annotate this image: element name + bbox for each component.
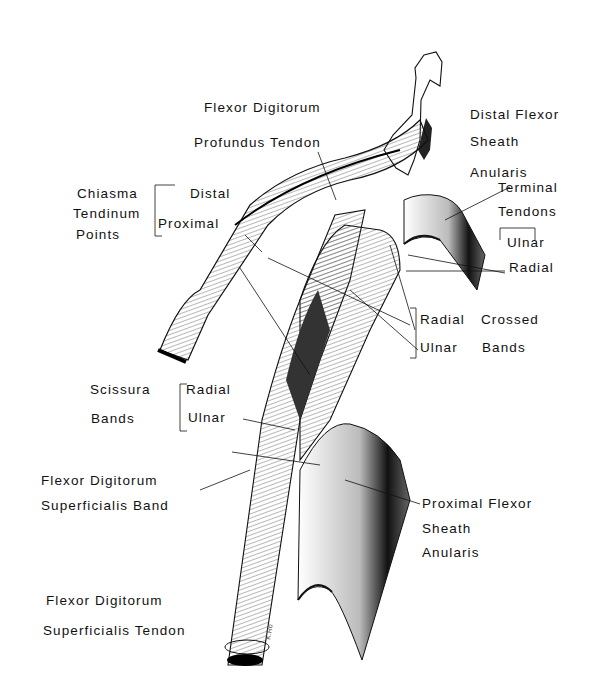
label-chiasma-line1: Chiasma [77,186,138,202]
label-distal-sheath-line1: Distal Flexor [470,107,559,123]
label-chiasma-line2: Tendinum [73,206,140,222]
label-crossed-line1: Crossed [481,312,539,328]
distal-flexor-sheath [404,195,485,290]
label-fdp-line1: Flexor Digitorum [204,100,321,116]
label-crossed-ulnar: Ulnar [420,340,458,356]
label-terminal-ulnar: Ulnar [507,235,545,251]
label-proximal-sheath-line3: Anularis [422,545,480,561]
label-chiasma-line3: Points [76,227,120,243]
label-scissura-line1: Scissura [90,382,151,398]
label-proximal-sheath-line2: Sheath [422,521,471,537]
label-distal-sheath-line3: Anularis [470,165,528,181]
label-scissura-ulnar: Ulnar [188,410,226,426]
proximal-flexor-sheath [298,424,410,660]
label-crossed-radial: Radial [420,312,465,328]
label-scissura-radial: Radial [186,382,231,398]
label-scissura-line2: Bands [91,411,135,427]
label-fds-tendon-line1: Flexor Digitorum [46,593,163,609]
label-fds-band-line1: Flexor Digitorum [41,473,158,489]
label-crossed-line2: Bands [482,340,526,356]
label-terminal-line1: Terminal [498,180,558,196]
label-terminal-radial: Radial [509,260,554,276]
label-fds-band-line2: Superficialis Band [41,498,169,514]
artist-signature: K.Ro [264,624,274,641]
label-fds-tendon-line2: Superficialis Tendon [43,623,186,639]
label-terminal-line2: Tendons [498,204,557,220]
label-proximal-sheath-line1: Proximal Flexor [422,496,532,512]
label-chiasma-proximal: Proximal [158,216,219,232]
label-chiasma-distal: Distal [190,186,230,202]
label-distal-sheath-line2: Sheath [470,134,519,150]
label-fdp-line2: Profundus Tendon [194,135,321,151]
